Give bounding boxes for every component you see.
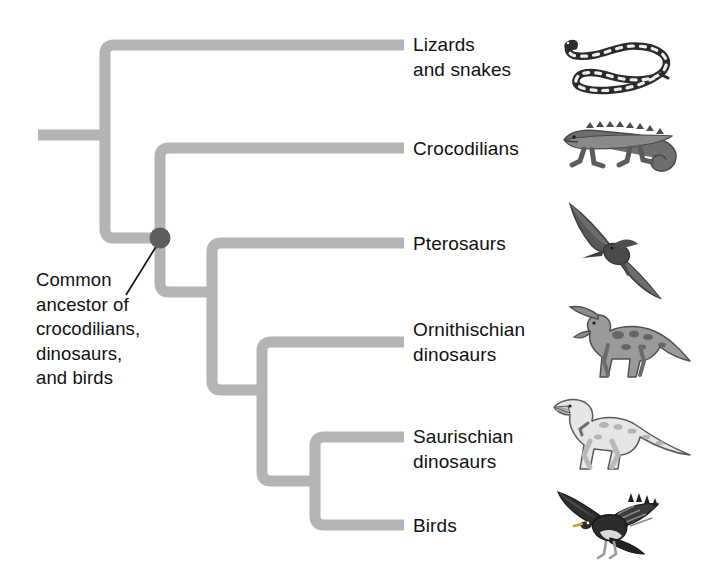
taxon-label-crocodilians: Crocodilians xyxy=(413,136,519,161)
taxon-label-saurischian-dinosaurs: Saurischian dinosaurs xyxy=(413,424,513,474)
branch-to-crocodilians xyxy=(160,148,404,238)
theropod-illustration xyxy=(548,393,696,473)
branch-to-saurischian-dinosaurs xyxy=(315,437,404,481)
hadrosaur-illustration xyxy=(556,303,696,383)
branch-ornithodira-to-dinosauria xyxy=(212,292,262,390)
taxon-label-birds: Birds xyxy=(413,513,457,538)
branch-archosaurs-to-ornithodira xyxy=(160,238,212,292)
common-ancestor-caption: Common ancestor of crocodilians, dinosau… xyxy=(36,268,166,391)
branch-to-lizards-and-snakes xyxy=(105,45,404,135)
branch-to-ornithischian-dinosaurs xyxy=(262,342,404,390)
eagle-illustration xyxy=(548,484,678,564)
crocodile-illustration xyxy=(556,118,696,184)
common-ancestor-node-dot xyxy=(150,228,171,249)
branch-root-to-archosaurs xyxy=(105,135,160,238)
branch-to-pterosaurs xyxy=(212,243,404,292)
cladogram-figure: Lizards and snakes Crocodilians Pterosau… xyxy=(0,0,728,576)
taxon-label-ornithischian-dinosaurs: Ornithischian dinosaurs xyxy=(413,317,525,367)
taxon-label-pterosaurs: Pterosaurs xyxy=(413,231,506,256)
coiled-snake-illustration xyxy=(556,30,686,100)
pterosaur-illustration xyxy=(552,198,682,310)
taxon-label-lizards-and-snakes: Lizards and snakes xyxy=(413,32,511,82)
branch-to-birds xyxy=(315,481,404,525)
branch-dinosauria-to-saurischia xyxy=(262,390,315,481)
